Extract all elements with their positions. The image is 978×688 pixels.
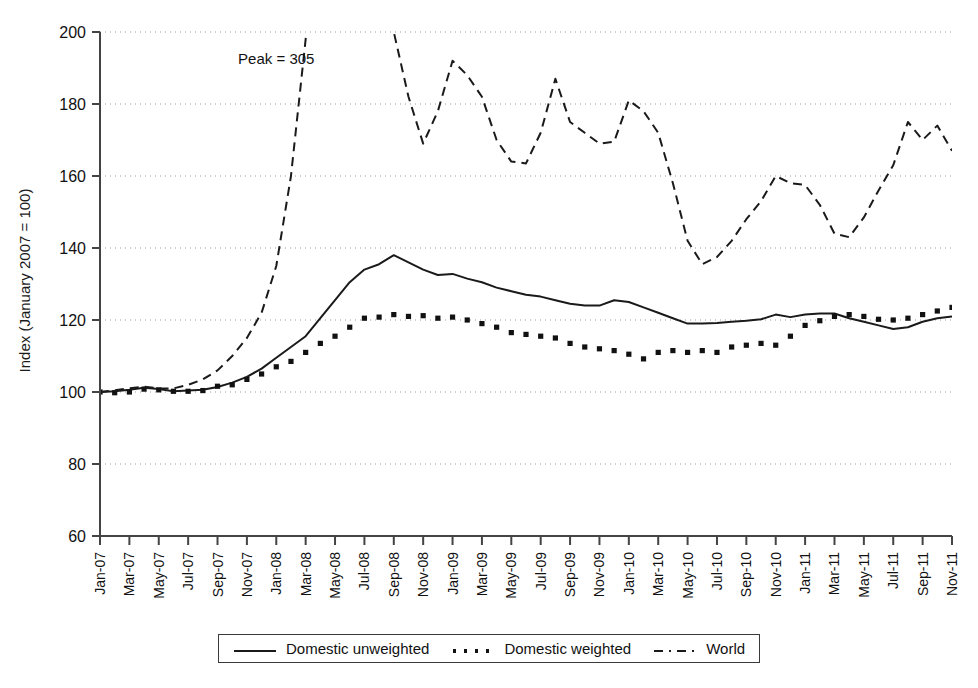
x-tick-label: Jul-11 bbox=[885, 552, 901, 589]
legend-label-0: Domestic unweighted bbox=[286, 640, 429, 657]
y-tick-label: 60 bbox=[68, 528, 86, 545]
y-tick-label: 180 bbox=[59, 96, 86, 113]
x-tick-label: Mar-11 bbox=[826, 552, 842, 596]
x-tick-label: Jan-07 bbox=[92, 552, 108, 595]
x-tick-label: May-10 bbox=[680, 552, 696, 599]
chart-legend: Domestic unweighted Domestic weighted Wo… bbox=[218, 634, 760, 663]
x-tick-label: Nov-09 bbox=[591, 552, 607, 597]
x-axis-ticks: Jan-07Mar-07May-07Jul-07Sep-07Nov-07Jan-… bbox=[92, 536, 960, 599]
x-tick-label: Sep-08 bbox=[386, 552, 402, 597]
series-0-line bbox=[100, 255, 952, 392]
peak-annotation: Peak = 305 bbox=[238, 50, 314, 67]
legend-swatch-dashed-icon bbox=[653, 643, 697, 655]
x-tick-label: Mar-10 bbox=[650, 552, 666, 597]
x-tick-label: May-08 bbox=[327, 552, 343, 599]
x-tick-label: Jul-09 bbox=[533, 552, 549, 590]
x-tick-label: Nov-07 bbox=[239, 552, 255, 597]
x-tick-label: Jul-10 bbox=[709, 552, 725, 590]
y-tick-label: 120 bbox=[59, 312, 86, 329]
legend-item-world[interactable]: World bbox=[653, 640, 745, 657]
chart-plot-area: 6080100120140160180200 Jan-07Mar-07May-0… bbox=[0, 0, 978, 688]
x-tick-label: Mar-08 bbox=[298, 552, 314, 597]
x-tick-label: Sep-07 bbox=[210, 552, 226, 597]
x-tick-label: Jul-08 bbox=[356, 552, 372, 590]
legend-swatch-dotted-icon bbox=[451, 643, 495, 655]
y-axis-ticks: 6080100120140160180200 bbox=[59, 24, 100, 545]
y-tick-label: 100 bbox=[59, 384, 86, 401]
x-tick-label: Sep-11 bbox=[915, 552, 931, 596]
x-tick-label: Nov-08 bbox=[415, 552, 431, 597]
x-tick-label: Sep-10 bbox=[738, 552, 754, 597]
chart-figure: Index (January 2007 = 100) 6080100120140… bbox=[0, 0, 978, 688]
legend-item-domestic-weighted[interactable]: Domestic weighted bbox=[451, 640, 631, 657]
x-tick-label: Jan-11 bbox=[797, 552, 813, 594]
y-tick-label: 140 bbox=[59, 240, 86, 257]
x-tick-label: May-09 bbox=[503, 552, 519, 599]
y-tick-label: 200 bbox=[59, 24, 86, 41]
series-1-markers bbox=[97, 305, 954, 396]
gridlines bbox=[100, 32, 952, 464]
legend-label-2: World bbox=[706, 640, 745, 657]
data-series-layer bbox=[97, 0, 954, 395]
x-tick-label: Jan-09 bbox=[445, 552, 461, 595]
chart-annotations: Peak = 305 bbox=[238, 50, 314, 67]
x-tick-label: Nov-10 bbox=[768, 552, 784, 597]
x-tick-label: Nov-11 bbox=[944, 552, 960, 596]
x-tick-label: Sep-09 bbox=[562, 552, 578, 597]
legend-swatch-solid-icon bbox=[233, 643, 277, 655]
legend-label-1: Domestic weighted bbox=[504, 640, 631, 657]
x-tick-label: Jan-10 bbox=[621, 552, 637, 595]
x-tick-label: Jan-08 bbox=[268, 552, 284, 595]
x-tick-label: May-11 bbox=[856, 552, 872, 598]
x-tick-label: May-07 bbox=[151, 552, 167, 599]
legend-item-domestic-unweighted[interactable]: Domestic unweighted bbox=[233, 640, 429, 657]
x-tick-label: Jul-07 bbox=[180, 552, 196, 590]
x-tick-label: Mar-09 bbox=[474, 552, 490, 597]
x-tick-label: Mar-07 bbox=[121, 552, 137, 597]
y-tick-label: 160 bbox=[59, 168, 86, 185]
y-tick-label: 80 bbox=[68, 456, 86, 473]
